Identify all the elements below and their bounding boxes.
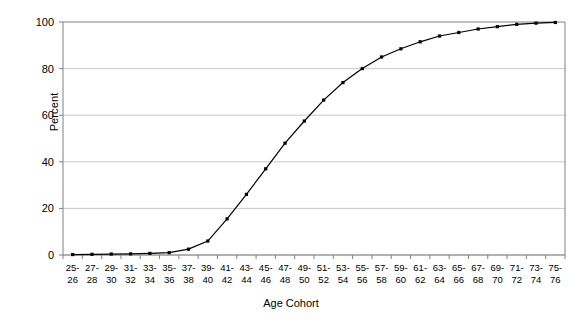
data-point-marker: [496, 25, 499, 28]
data-point-marker: [515, 23, 518, 26]
data-point-marker: [168, 251, 171, 254]
chart-container: Percent Age Cohort 020406080100 25-2627-…: [0, 0, 582, 322]
data-point-marker: [148, 252, 151, 255]
data-point-marker: [264, 167, 267, 170]
data-point-marker: [341, 81, 344, 84]
data-point-marker: [477, 27, 480, 30]
data-point-marker: [554, 21, 557, 24]
data-point-marker: [187, 248, 190, 251]
data-point-marker: [380, 55, 383, 58]
data-point-marker: [457, 31, 460, 34]
data-point-marker: [110, 252, 113, 255]
data-point-marker: [322, 98, 325, 101]
data-point-marker: [438, 34, 441, 37]
data-point-marker: [283, 142, 286, 145]
data-point-marker: [245, 193, 248, 196]
data-series-line: [73, 22, 556, 254]
data-point-marker: [206, 239, 209, 242]
data-point-marker: [226, 217, 229, 220]
data-point-marker: [419, 40, 422, 43]
chart-plot: [0, 0, 582, 322]
data-point-marker: [71, 253, 74, 256]
data-point-marker: [129, 252, 132, 255]
data-point-marker: [90, 253, 93, 256]
data-point-marker: [303, 119, 306, 122]
data-point-marker: [534, 22, 537, 25]
data-point-marker: [399, 47, 402, 50]
data-point-marker: [361, 67, 364, 70]
